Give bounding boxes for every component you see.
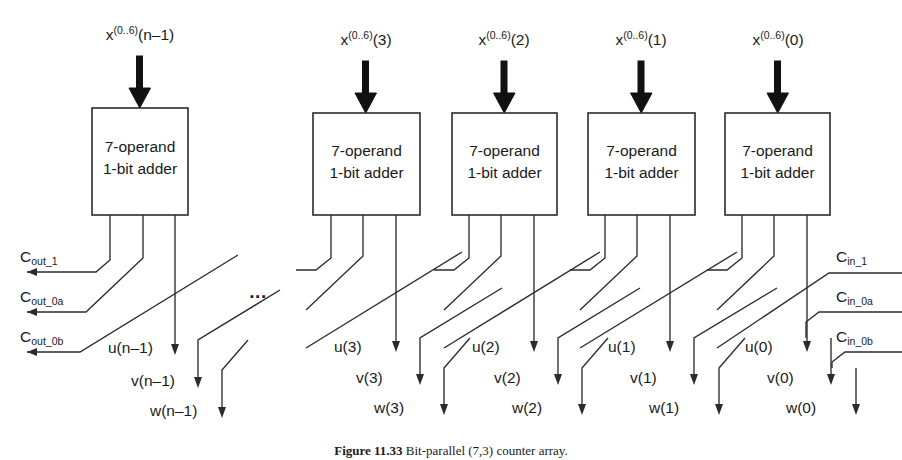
outputs-block-2: u(2) v(2) w(2) [434, 215, 640, 416]
wire-v-1 [694, 288, 777, 378]
counter-array-diagram: x(0..6)(n–1) 7-operand 1-bit adder x(0..… [0, 0, 902, 460]
input-label-index-2: (2) [511, 31, 530, 48]
input-label-n-1: x(0..6)(n–1) [106, 24, 174, 43]
arrow-u-n-1 [171, 344, 179, 355]
figure-caption-body: Bit-parallel (7,3) counter array. [406, 443, 568, 458]
outputs-block-n-1: u(n–1) v(n–1) w(n–1) [108, 215, 280, 419]
label-cin-0b-base: C [836, 328, 847, 345]
wire-carry1-1 [570, 215, 605, 270]
adder-box-line2-2: 1-bit adder [467, 164, 541, 181]
label-cout-1-base: C [20, 248, 31, 265]
adder-block-0: x(0..6)(0) 7-operand 1-bit adder [725, 29, 830, 215]
label-v-1: v(1) [630, 369, 657, 386]
label-cin-1-sub: in_1 [847, 255, 867, 267]
wire-carry0a-0 [717, 215, 774, 310]
arrow-u-3 [392, 341, 400, 352]
arrow-w-2 [578, 404, 586, 415]
label-cin-0b-sub: in_0b [847, 335, 873, 347]
wire-carry0a-2 [444, 215, 501, 310]
label-cin-0a-sub: in_0a [847, 295, 873, 307]
arrow-u-0 [803, 341, 811, 352]
arrow-v-1 [690, 374, 698, 385]
label-v-0: v(0) [767, 369, 794, 386]
label-u-n-1: u(n–1) [108, 339, 153, 356]
arrow-v-0 [827, 374, 835, 385]
arrow-cout-1 [27, 268, 37, 276]
adder-box-line1-0: 7-operand [742, 142, 813, 159]
arrow-v-n-1 [194, 377, 202, 388]
input-arrow-2 [494, 61, 516, 113]
label-v-3: v(3) [356, 369, 383, 386]
input-arrow-0 [767, 61, 789, 113]
wire-v-n-1 [198, 290, 280, 381]
wire-carry1-0 [707, 215, 742, 270]
wire-carry1-3 [296, 215, 331, 270]
label-cin-1: Cin_1 [836, 248, 867, 267]
label-cout-1-sub: out_1 [31, 255, 57, 267]
carry-in-labels: Cin_1 Cin_0a Cin_0b [836, 248, 873, 347]
label-w-3: w(3) [373, 399, 404, 416]
label-u-3: u(3) [334, 338, 362, 355]
arrow-w-1 [715, 404, 723, 415]
arrow-u-1 [666, 341, 674, 352]
input-label-sup-3: (0..6) [348, 29, 373, 41]
label-w-2: w(2) [511, 399, 542, 416]
wire-carry0b-2 [444, 252, 600, 348]
arrow-cout-0b [27, 348, 37, 356]
adder-box-line1-3: 7-operand [331, 142, 402, 159]
input-label-sup-n-1: (0..6) [114, 24, 139, 36]
wire-v-2 [558, 288, 640, 378]
arrow-cout-0a [27, 308, 37, 316]
input-label-2: x(0..6)(2) [478, 29, 529, 48]
label-cout-0a: Cout_0a [20, 288, 63, 307]
label-cout-0a-base: C [20, 288, 31, 305]
adder-box-line2-3: 1-bit adder [329, 164, 403, 181]
figure-caption: Figure 11.33 Bit-parallel (7,3) counter … [334, 443, 568, 458]
label-cin-1-base: C [836, 248, 847, 265]
wire-w-3 [444, 338, 470, 408]
adder-block-n-1: x(0..6)(n–1) 7-operand 1-bit adder [92, 24, 188, 215]
adder-block-2: x(0..6)(2) 7-operand 1-bit adder [452, 29, 557, 215]
arrow-w-0 [852, 404, 860, 415]
input-label-index-3: (3) [373, 31, 392, 48]
arrow-w-n-1 [218, 407, 226, 418]
input-label-3: x(0..6)(3) [340, 29, 391, 48]
label-w-0: w(0) [785, 399, 816, 416]
outputs-block-1: u(1) v(1) w(1) [570, 215, 777, 416]
label-cout-0b-base: C [20, 328, 31, 345]
arrow-v-2 [554, 374, 562, 385]
label-cout-0b: Cout_0b [20, 328, 63, 347]
adder-box-line2-0: 1-bit adder [740, 164, 814, 181]
wire-carry0b-1 [580, 252, 737, 348]
input-arrow-n-1 [129, 56, 151, 108]
outputs-block-0: u(0) v(0) w(0) [707, 215, 860, 416]
figure-container: x(0..6)(n–1) 7-operand 1-bit adder x(0..… [0, 0, 902, 460]
label-v-n-1: v(n–1) [131, 372, 175, 389]
input-label-1: x(0..6)(1) [615, 29, 666, 48]
figure-caption-label: Figure 11.33 [334, 443, 403, 458]
wire-w-2 [582, 338, 608, 408]
wire-cin-0b [832, 352, 902, 368]
wire-carry0a-3 [306, 215, 363, 310]
label-cout-0b-sub: out_0b [31, 335, 63, 347]
adder-block-1: x(0..6)(1) 7-operand 1-bit adder [588, 29, 695, 215]
input-label-0: x(0..6)(0) [752, 29, 803, 48]
adder-box-line1-1: 7-operand [606, 142, 677, 159]
wire-carry0b-3 [306, 252, 462, 348]
adder-box-line2-1: 1-bit adder [604, 164, 678, 181]
input-arrow-1 [631, 61, 653, 113]
label-w-1: w(1) [648, 399, 679, 416]
adder-box-line1-n-1: 7-operand [105, 138, 176, 155]
wire-carry1-2 [434, 215, 469, 270]
arrow-v-3 [416, 374, 424, 385]
wire-v-3 [420, 288, 502, 378]
label-u-0: u(0) [745, 338, 773, 355]
label-cin-0a-base: C [836, 288, 847, 305]
adder-box-line1-2: 7-operand [469, 142, 540, 159]
adder-block-3: x(0..6)(3) 7-operand 1-bit adder [313, 29, 420, 215]
adder-box-line2-n-1: 1-bit adder [103, 160, 177, 177]
arrow-w-3 [440, 404, 448, 415]
label-u-1: u(1) [608, 338, 636, 355]
input-label-index-n-1: (n–1) [138, 26, 174, 43]
input-label-sup-1: (0..6) [623, 29, 648, 41]
